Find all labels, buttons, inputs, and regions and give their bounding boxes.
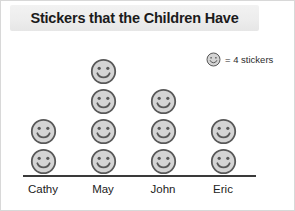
smiley-face-icon [208, 146, 238, 176]
x-axis-label-may: May [73, 183, 133, 195]
pictograph-figure: Stickers that the Children Have = 4 stic… [0, 0, 295, 211]
pictograph-column-cathy [28, 116, 58, 176]
pictograph-column-eric [208, 116, 238, 176]
smiley-face-icon [28, 146, 58, 176]
pictograph-column-john [148, 86, 178, 176]
x-axis-label-eric: Eric [193, 183, 253, 195]
smiley-face-icon [88, 116, 118, 146]
pictograph-column-may [88, 56, 118, 176]
x-axis-label-john: John [133, 183, 193, 195]
smiley-face-icon [148, 86, 178, 116]
smiley-face-icon [88, 56, 118, 86]
smiley-face-icon [148, 146, 178, 176]
smiley-face-icon [148, 116, 178, 146]
smiley-face-icon [208, 116, 238, 146]
smiley-face-icon [28, 116, 58, 146]
smiley-face-icon [88, 86, 118, 116]
x-axis-line [23, 175, 256, 177]
smiley-face-icon [88, 146, 118, 176]
x-axis-label-cathy: Cathy [13, 183, 73, 195]
plot-area [1, 1, 295, 211]
